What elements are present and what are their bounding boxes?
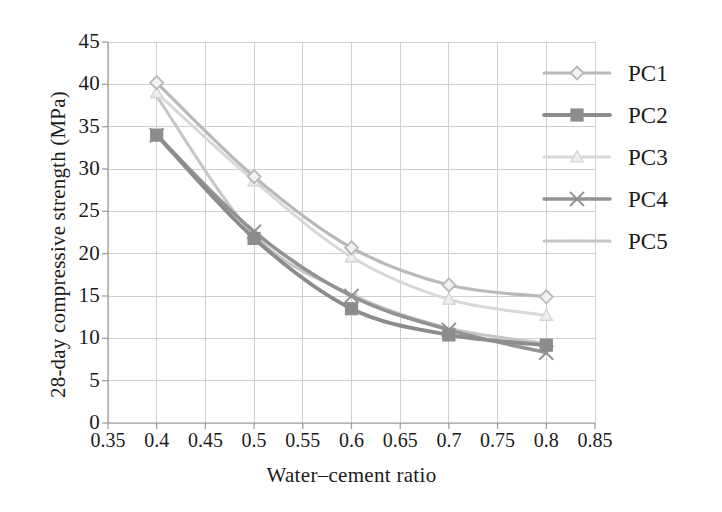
data-series-layer [108,42,595,423]
plot-area [108,42,595,423]
legend-swatch-pc3 [540,144,614,170]
legend-item-pc5: PC5 [540,220,712,262]
legend-label-pc3: PC3 [628,146,668,169]
legend-item-pc3: PC3 [540,136,712,178]
legend-swatch-pc1 [540,60,614,86]
chart-figure: 051015202530354045 28-day compressive st… [0,0,722,512]
x-tick-label: 0.85 [560,429,630,451]
legend-label-pc5: PC5 [628,230,668,253]
legend-item-pc4: PC4 [540,178,712,220]
legend-swatch-pc4 [540,186,614,212]
y-axis-title: 28-day compressive strength (MPa) [46,35,71,455]
legend-item-pc2: PC2 [540,94,712,136]
legend-swatch-pc2 [540,102,614,128]
series-pc3 [151,87,553,320]
x-axis-title: Water–cement ratio [108,463,595,488]
legend-label-pc4: PC4 [628,188,668,211]
legend-swatch-pc5 [540,228,614,254]
legend-label-pc2: PC2 [628,104,668,127]
legend-item-pc1: PC1 [540,52,712,94]
legend-label-pc1: PC1 [628,62,668,85]
chart-legend: PC1PC2PC3PC4PC5 [540,52,712,262]
